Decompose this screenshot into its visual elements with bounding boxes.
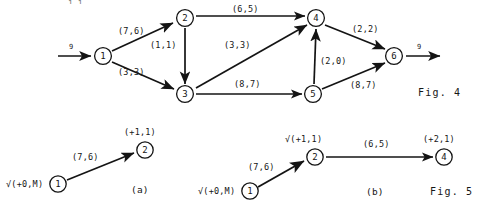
fig5a-node-1-tag: √(+0,M) [6,180,43,189]
fig4-sink-flow-label: 9 [417,44,421,51]
fig5a-edge-label-1-2: (7,6) [72,153,99,162]
fig5b-node-1-label: 1 [247,186,252,196]
fig4-edge-label-4-6: (2,2) [352,25,379,34]
fig4-node-5[interactable]: 5 [305,86,322,103]
fig4-node-2[interactable]: 2 [177,10,194,27]
fig4-node-4-label: 4 [313,13,318,23]
fig4-edge-label-1-2: (7,6) [118,27,145,36]
fig5b-node-1[interactable]: 1 [242,183,258,199]
fig4-edge-label-1-3: (3,3) [118,68,145,77]
fig4-node-1[interactable]: 1 [95,48,112,65]
fig5b-node-4[interactable]: 4 [436,149,452,165]
fig5b-edge-label-1-2: (7,6) [248,163,275,172]
fig5a-node-1-label: 1 [55,179,60,189]
fig4-node-3-label: 3 [182,89,187,99]
fig4-node-6-label: 6 [391,51,396,61]
fig4-edge-label-3-5: (8,7) [234,80,261,89]
figure-sheet: 1,1 [0,0,500,211]
fig4-caption: Fig. 4 [418,88,461,98]
fig5a-panel-label: (a) [131,185,149,195]
fig5b-node-2-tag: √(+1,1) [285,135,322,144]
fig5-caption: Fig. 5 [430,187,473,197]
fig4-node-4[interactable]: 4 [308,10,325,27]
fig5b-node-2-label: 2 [312,152,317,162]
fig5a-node-2-label: 2 [142,145,147,155]
fig5b-edge-label-2-4: (6,5) [363,140,390,149]
fig4-edge-label-5-4: (2,0) [320,57,347,66]
fig4-node-3[interactable]: 3 [177,86,194,103]
diagram-vector-layer: 1 2 3 4 5 6 1 2 [0,0,500,211]
fig4-edge-5-4 [314,29,316,84]
fig5b-node-4-tag: (+2,1) [423,135,455,144]
fig4-node-5-label: 5 [310,89,315,99]
fig4-node-1-label: 1 [100,51,105,61]
fig5b-panel-label: (b) [366,187,384,197]
fig4-node-6[interactable]: 6 [386,48,403,65]
fig5b-node-1-tag: √(+0,M) [198,187,235,196]
fig4-edge-label-2-3: (1,1) [150,41,177,50]
fig5b-node-2[interactable]: 2 [307,149,323,165]
fig5b-node-4-label: 4 [441,152,446,162]
fig5a-node-2-tag: (+1,1) [124,128,156,137]
fig4-node-2-label: 2 [182,13,187,23]
fig4-source-flow-label: 9 [69,44,73,51]
fig4-edge-label-5-6: (8,7) [350,81,377,90]
fig4-edge-label-2-4: (6,5) [232,5,259,14]
fig4-edge-label-3-4: (3,3) [224,41,251,50]
fig5a-node-1[interactable]: 1 [50,176,66,192]
fig5a-node-2[interactable]: 2 [137,142,153,158]
